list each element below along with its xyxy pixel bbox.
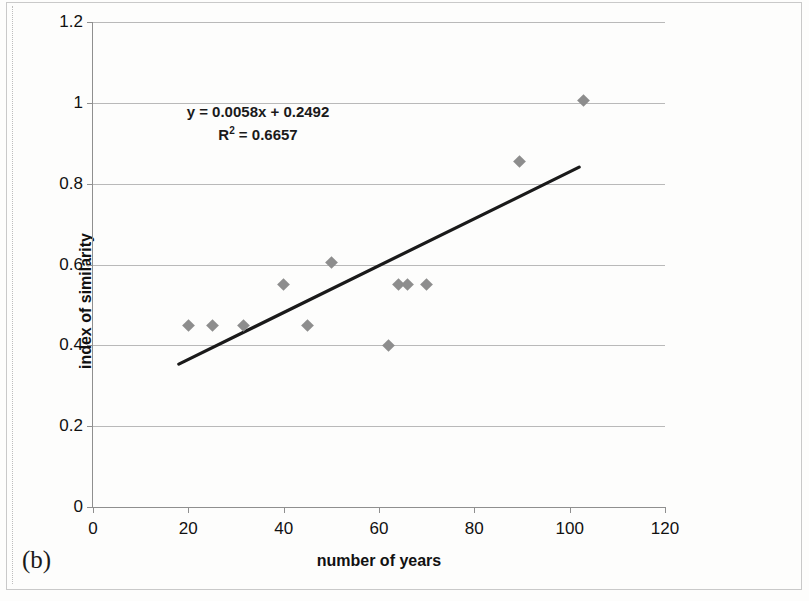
y-tick-label: 0 [74, 497, 83, 517]
y-tick-label: 1.2 [59, 12, 83, 32]
data-point-marker [420, 278, 433, 291]
data-point-marker [206, 319, 219, 332]
y-tick [87, 103, 93, 104]
data-point-marker [301, 319, 314, 332]
panel-caption: (b) [22, 546, 51, 574]
x-tick-label: 100 [555, 519, 583, 539]
data-point-marker [513, 155, 526, 168]
y-tick-label: 0.2 [59, 416, 83, 436]
y-tick-label: 0.8 [59, 174, 83, 194]
data-point-marker [578, 94, 591, 107]
y-tick [87, 22, 93, 23]
y-tick-label: 0.6 [59, 255, 83, 275]
gridline-y [93, 345, 665, 346]
data-point-marker [401, 278, 414, 291]
x-axis-title: number of years [93, 552, 665, 570]
x-tick [570, 507, 571, 513]
y-tick-label: 1 [74, 93, 83, 113]
y-tick [87, 265, 93, 266]
scatter-plot-area: 00.20.40.60.811.2 020406080100120 [93, 22, 665, 507]
x-tick-label: 120 [651, 519, 679, 539]
y-tick-label: 0.4 [59, 335, 83, 355]
x-tick-label: 20 [179, 519, 198, 539]
x-tick [284, 507, 285, 513]
x-tick-label: 0 [88, 519, 97, 539]
y-tick [87, 184, 93, 185]
data-point-marker [277, 278, 290, 291]
x-tick [474, 507, 475, 513]
gridline-y [93, 22, 665, 23]
gridline-y [93, 265, 665, 266]
gridline-y [93, 426, 665, 427]
data-point-marker [325, 256, 338, 269]
y-tick [87, 345, 93, 346]
x-tick [93, 507, 94, 513]
x-tick [188, 507, 189, 513]
data-point-marker [237, 319, 250, 332]
data-point-marker [382, 339, 395, 352]
x-tick-label: 60 [370, 519, 389, 539]
x-tick-label: 40 [274, 519, 293, 539]
gridline-y [93, 184, 665, 185]
figure-page: index of similarity number of years y = … [0, 0, 809, 601]
x-tick [379, 507, 380, 513]
data-point-marker [182, 319, 195, 332]
x-tick-label: 80 [465, 519, 484, 539]
y-tick [87, 426, 93, 427]
x-tick [665, 507, 666, 513]
